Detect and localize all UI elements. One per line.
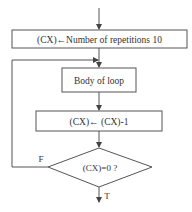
false-label: F	[38, 154, 43, 164]
loop-flowchart: (CX)←Number of repetitions 10 Body of lo…	[0, 0, 192, 212]
test-node: (CX)=0 ?	[48, 148, 152, 187]
true-label: T	[104, 191, 110, 201]
body-node-label: Body of loop	[74, 76, 124, 86]
body-node: Body of loop	[62, 68, 136, 92]
decrement-node: (CX)← (CX)-1	[36, 111, 162, 131]
test-node-label: (CX)=0 ?	[83, 163, 117, 173]
init-node: (CX)←Number of repetitions 10	[12, 30, 187, 48]
decrement-node-label: (CX)← (CX)-1	[70, 117, 129, 128]
init-node-label: (CX)←Number of repetitions 10	[37, 35, 162, 46]
